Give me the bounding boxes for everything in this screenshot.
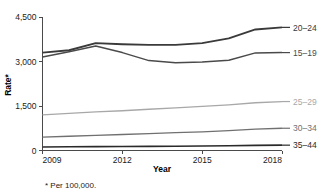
y-tick-label: 4,500	[15, 12, 37, 22]
series-lines-group	[43, 27, 283, 147]
y-axis-title: Rate*	[3, 73, 13, 95]
line-chart-figure: 01,5003,0004,500 2009201220152018 Rate* …	[0, 0, 322, 195]
x-tick-label: 2015	[193, 155, 212, 165]
footnote-text: * Per 100,000.	[45, 181, 96, 190]
series-line-30-34	[43, 128, 283, 137]
y-tick-label: 3,000	[15, 57, 37, 67]
y-axis-ticks	[39, 17, 43, 151]
series-label-20-24: 20–24	[293, 23, 317, 33]
x-tick-label: 2012	[113, 155, 132, 165]
x-tick-label: 2018	[263, 155, 282, 165]
series-label-35-44: 35–44	[293, 140, 317, 150]
y-tick-label: 0	[32, 146, 37, 156]
series-label-15-19: 15–19	[293, 48, 317, 58]
y-tick-label: 1,500	[15, 101, 37, 111]
series-line-20-24	[43, 27, 283, 52]
series-legend-group: 20–2415–1925–2930–3435–44	[282, 23, 317, 151]
x-axis-ticks	[43, 151, 283, 155]
x-axis-tick-labels: 2009201220152018	[43, 155, 283, 165]
series-line-35-44	[43, 145, 283, 147]
series-label-30-34: 30–34	[293, 123, 317, 133]
x-tick-label: 2009	[43, 155, 62, 165]
series-label-25-29: 25–29	[293, 97, 317, 107]
x-axis-title: Year	[153, 164, 172, 174]
series-line-25-29	[43, 102, 283, 115]
y-axis-tick-labels: 01,5003,0004,500	[15, 12, 37, 156]
